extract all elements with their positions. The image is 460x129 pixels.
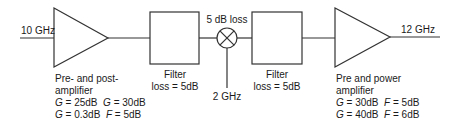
param-value: = 5dB [112, 109, 141, 120]
param-symbol: G [55, 109, 63, 120]
stage1-params-row1: G = 25dB G = 30dB [55, 97, 146, 109]
filter1-label: Filter loss = 5dB [140, 69, 210, 93]
param-value: = 40dB [344, 109, 379, 120]
filter-2-box [252, 12, 302, 64]
pre-post-amplifier-triangle [54, 8, 108, 67]
stage2-amplifier-label: Pre and power amplifier G = 30dB F = 5dB… [336, 73, 419, 121]
param-symbol: G [55, 97, 63, 108]
filter1-title: Filter [140, 69, 210, 81]
filter2-title: Filter [242, 69, 312, 81]
param-value: = 30dB [344, 97, 379, 108]
param-symbol: G [103, 97, 111, 108]
mixer-loss-label: 5 dB loss [197, 14, 257, 26]
param-value: = 25dB [63, 97, 98, 108]
param-value: = 0.3dB [63, 109, 101, 120]
filter2-loss: loss = 5dB [242, 81, 312, 93]
input-frequency-label: 10 GHz [21, 25, 55, 37]
param-value: = 30dB [111, 97, 146, 108]
stage2-params-row1: G = 30dB F = 5dB [336, 97, 419, 109]
mixer-icon [217, 28, 237, 48]
filter1-loss: loss = 5dB [140, 81, 210, 93]
stage1-params-row2: G = 0.3dB F = 5dB [55, 109, 146, 121]
stage2-params-row2: G = 40dB F = 6dB [336, 109, 419, 121]
pre-power-amplifier-triangle [335, 8, 390, 67]
filter-1-box [150, 12, 199, 64]
output-frequency-label: 12 GHz [401, 24, 435, 36]
stage2-name-line1: Pre and power [336, 73, 419, 85]
param-symbol: G [336, 109, 344, 120]
stage1-name-line1: Pre- and post- [55, 73, 146, 85]
param-symbol: G [336, 97, 344, 108]
stage1-amplifier-label: Pre- and post- amplifier G = 25dB G = 30… [55, 73, 146, 121]
filter2-label: Filter loss = 5dB [242, 69, 312, 93]
stage1-name-line2: amplifier [55, 85, 146, 97]
param-value: = 6dB [390, 109, 419, 120]
stage2-name-line2: amplifier [336, 85, 419, 97]
param-value: = 5dB [390, 97, 419, 108]
